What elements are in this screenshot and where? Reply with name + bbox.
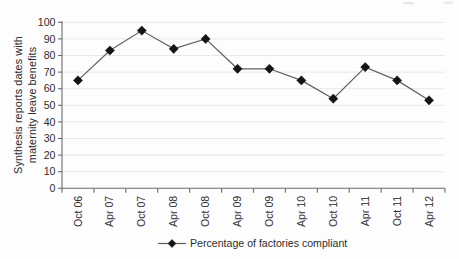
data-point-marker: [297, 76, 306, 85]
x-tick-label: Oct 08: [199, 196, 211, 227]
chart-figure: 0102030405060708090100 Oct 06Apr 07Oct 0…: [0, 0, 459, 259]
x-tick-label: Apr 11: [359, 196, 371, 227]
y-axis-title-line1: Synthesis reports dates with: [12, 36, 24, 174]
y-axis-title-line2: maternity leave benefits: [26, 46, 38, 163]
y-tick-label: 100: [38, 16, 56, 28]
line-chart: 0102030405060708090100 Oct 06Apr 07Oct 0…: [0, 0, 459, 259]
y-tick-label: 50: [44, 99, 56, 111]
legend-label: Percentage of factories compliant: [190, 237, 347, 249]
x-tick-label: Apr 12: [423, 196, 435, 227]
series-line: [78, 31, 429, 101]
y-tick-label: 60: [44, 82, 56, 94]
x-tick-label: Oct 11: [391, 196, 403, 227]
scan-artifact: [444, 2, 453, 5]
data-series: [73, 26, 433, 105]
y-tick-label: 10: [44, 165, 56, 177]
data-point-marker: [169, 44, 178, 53]
x-tick-label: Oct 06: [72, 196, 84, 227]
y-tick-label: 70: [44, 66, 56, 78]
y-tick-label: 90: [44, 33, 56, 45]
x-tick-label: Apr 08: [167, 196, 179, 227]
x-tick-label: Oct 07: [135, 196, 147, 227]
x-axis-tick-labels: Oct 06Apr 07Oct 07Apr 08Oct 08Apr 09Oct …: [72, 196, 435, 227]
x-tick-label: Oct 09: [263, 196, 275, 227]
y-tick-label: 0: [50, 182, 56, 194]
scan-artifacts: [403, 2, 453, 5]
legend: Percentage of factories compliant: [158, 237, 347, 249]
y-tick-label: 40: [44, 116, 56, 128]
data-point-marker: [137, 26, 146, 35]
data-point-marker: [424, 96, 433, 105]
y-tick-label: 20: [44, 149, 56, 161]
scan-artifact: [403, 2, 414, 5]
x-tick-label: Oct 10: [327, 196, 339, 227]
x-tick-label: Apr 07: [103, 196, 115, 227]
legend-diamond-marker-icon: [168, 240, 176, 248]
x-tick-label: Apr 10: [295, 196, 307, 227]
y-axis-tick-labels: 0102030405060708090100: [38, 16, 56, 194]
y-tick-label: 80: [44, 49, 56, 61]
y-tick-label: 30: [44, 132, 56, 144]
data-point-marker: [393, 76, 402, 85]
x-tick-label: Apr 09: [231, 196, 243, 227]
